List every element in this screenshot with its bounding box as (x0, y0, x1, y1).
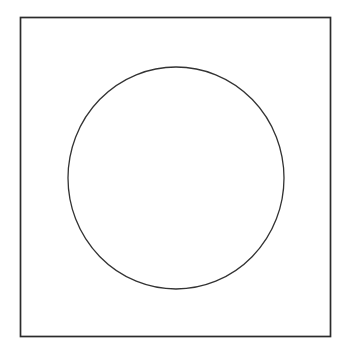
figure-background (0, 0, 350, 358)
line-drawing-figure (0, 0, 350, 358)
figure-canvas (0, 0, 350, 358)
